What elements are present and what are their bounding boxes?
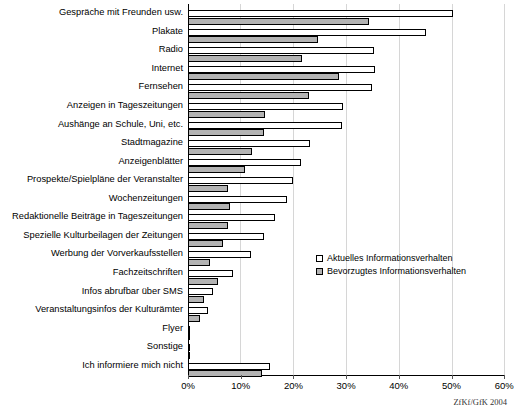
x-tick <box>188 375 189 379</box>
category-label: Aushänge an Schule, Uni, etc. <box>58 119 183 129</box>
bar-preferred <box>188 222 228 229</box>
bar-chart: Gespräche mit Freunden usw.PlakateRadioI… <box>0 0 515 413</box>
category-label: Stadtmagazine <box>121 137 183 147</box>
bar-current <box>188 233 264 240</box>
bar-preferred <box>188 148 252 155</box>
x-tick <box>346 375 347 379</box>
x-tick <box>504 375 505 379</box>
bar-preferred <box>188 259 210 266</box>
bar-current <box>188 196 287 203</box>
bar-current <box>188 251 251 258</box>
bar-preferred <box>188 278 218 285</box>
x-tick-label: 10% <box>221 380 261 391</box>
x-tick <box>293 375 294 379</box>
category-label: Anzeigenblätter <box>118 156 183 166</box>
bar-current <box>188 47 374 54</box>
bar-current <box>188 270 233 277</box>
legend-item-current: Aktuelles Informationsverhalten <box>316 252 466 265</box>
bar-current <box>188 177 293 184</box>
category-label: Plakate <box>152 26 183 36</box>
category-label: Veranstaltungsinfos der Kulturämter <box>35 304 183 314</box>
bar-preferred <box>188 352 190 359</box>
bar-current <box>188 326 190 333</box>
bar-preferred <box>188 185 228 192</box>
bar-current <box>188 307 208 314</box>
x-tick-label: 50% <box>432 380 472 391</box>
x-tick-label: 40% <box>379 380 419 391</box>
bar-preferred <box>188 18 369 25</box>
legend: Aktuelles Informationsverhalten Bevorzug… <box>316 252 466 278</box>
category-label: Internet <box>151 63 183 73</box>
legend-item-preferred: Bevorzugtes Informationsverhalten <box>316 265 466 278</box>
legend-swatch-preferred-icon <box>316 268 323 275</box>
x-tick-label: 30% <box>326 380 366 391</box>
x-tick-label: 0% <box>168 380 208 391</box>
bar-current <box>188 344 190 351</box>
legend-swatch-current-icon <box>316 255 323 262</box>
bar-current <box>188 159 301 166</box>
category-label: Gespräche mit Freunden usw. <box>59 7 183 17</box>
bar-current <box>188 103 343 110</box>
bar-current <box>188 29 426 36</box>
legend-label-preferred: Bevorzugtes Informationsverhalten <box>327 265 466 278</box>
bar-preferred <box>188 203 230 210</box>
bar-preferred <box>188 55 302 62</box>
x-tick-label: 60% <box>484 380 515 391</box>
category-label: Ich informiere mich nicht <box>82 360 183 370</box>
x-tick <box>452 375 453 379</box>
bar-preferred <box>188 370 262 377</box>
x-tick <box>399 375 400 379</box>
bar-preferred <box>188 92 309 99</box>
bar-current <box>188 84 372 91</box>
bar-preferred <box>188 73 339 80</box>
bar-current <box>188 122 342 129</box>
bar-preferred <box>188 296 204 303</box>
x-tick-label: 20% <box>273 380 313 391</box>
category-label: Flyer <box>162 323 183 333</box>
category-label: Infos abrufbar über SMS <box>82 286 183 296</box>
bar-current <box>188 363 270 370</box>
category-label-column: Gespräche mit Freunden usw.PlakateRadioI… <box>0 0 186 371</box>
legend-label-current: Aktuelles Informationsverhalten <box>327 252 453 265</box>
bar-preferred <box>188 166 245 173</box>
category-label: Spezielle Kulturbeilagen der Zeitungen <box>23 230 183 240</box>
category-label: Fachzeitschriften <box>113 267 183 277</box>
category-label: Sonstige <box>147 341 183 351</box>
source-note: ZfKf/GfK 2004 <box>453 397 507 407</box>
category-label: Fernsehen <box>139 81 183 91</box>
plot-area <box>188 4 505 375</box>
bar-preferred <box>188 129 264 136</box>
category-label: Prospekte/Spielpläne der Veranstalter <box>27 174 183 184</box>
bar-current <box>188 10 453 17</box>
bar-current <box>188 66 375 73</box>
category-label: Redaktionelle Beiträge in Tageszeitungen <box>12 211 183 221</box>
bar-preferred <box>188 36 318 43</box>
x-tick <box>241 375 242 379</box>
bar-preferred <box>188 333 190 340</box>
category-label: Anzeigen in Tageszeitungen <box>67 100 183 110</box>
bar-current <box>188 140 310 147</box>
category-label: Werbung der Vorverkaufsstellen <box>51 248 183 258</box>
category-label: Radio <box>159 44 183 54</box>
bar-preferred <box>188 240 223 247</box>
bar-current <box>188 214 275 221</box>
category-label: Wochenzeitungen <box>109 193 183 203</box>
bar-preferred <box>188 315 200 322</box>
bar-current <box>188 288 213 295</box>
bar-preferred <box>188 111 265 118</box>
